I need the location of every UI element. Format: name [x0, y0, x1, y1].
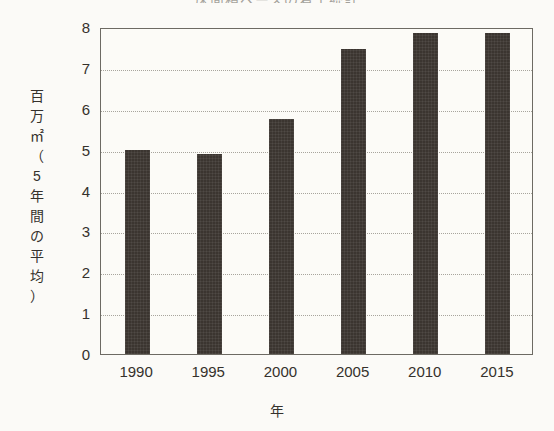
plot-area: [100, 28, 533, 355]
bar: [197, 154, 222, 354]
y-axis-tick-label: 6: [64, 102, 90, 117]
gridline: [101, 193, 532, 194]
gridline: [101, 315, 532, 316]
y-axis-title-char: の: [26, 226, 48, 246]
y-axis-tick-label: 8: [64, 20, 90, 35]
bar: [485, 33, 510, 354]
bar: [125, 150, 150, 354]
y-axis-tick-label: 7: [64, 61, 90, 76]
y-axis-title-char: 均: [26, 266, 48, 286]
gridline: [101, 70, 532, 71]
y-axis-tick-label: 2: [64, 265, 90, 280]
bar: [413, 33, 438, 354]
bar: [341, 49, 366, 354]
chart-figure: 床面積ベースの着工統計 百 万 ㎡ （ 5 年 間 の 平 均 ） 876543…: [0, 0, 554, 431]
x-axis-title: 年: [0, 400, 554, 420]
x-axis-tick-label: 1995: [172, 363, 244, 380]
y-axis-tick-label: 1: [64, 306, 90, 321]
gridline: [101, 274, 532, 275]
y-axis-title: 百 万 ㎡ （ 5 年 間 の 平 均 ）: [26, 86, 48, 306]
gridline: [101, 233, 532, 234]
y-axis-title-char: 間: [26, 206, 48, 226]
y-axis-title-char: ）: [26, 286, 48, 306]
gridline: [101, 111, 532, 112]
x-axis-tick-label: 2000: [244, 363, 316, 380]
x-axis-tick-label: 2015: [461, 363, 533, 380]
y-axis-title-char: 万: [26, 106, 48, 126]
y-axis-title-char: 5: [26, 166, 48, 186]
y-axis-tick-label: 3: [64, 224, 90, 239]
x-axis-tick-label: 2005: [317, 363, 389, 380]
bar: [269, 119, 294, 354]
y-axis-title-char: ㎡: [26, 126, 48, 146]
y-axis-title-char: 百: [26, 86, 48, 106]
x-axis-tick-label: 1990: [100, 363, 172, 380]
y-axis-tick-label: 5: [64, 143, 90, 158]
y-axis-title-char: 平: [26, 246, 48, 266]
chart-title: 床面積ベースの着工統計: [0, 0, 554, 3]
y-axis-tick-label: 0: [64, 347, 90, 362]
x-axis-tick-label: 2010: [389, 363, 461, 380]
y-axis-title-char: （: [26, 146, 48, 166]
gridline: [101, 152, 532, 153]
y-axis-title-char: 年: [26, 186, 48, 206]
y-axis-tick-label: 4: [64, 184, 90, 199]
